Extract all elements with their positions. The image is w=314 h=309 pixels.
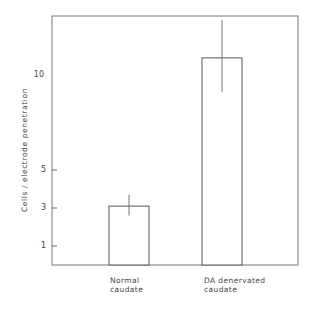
plot-frame xyxy=(52,16,298,265)
y-tick-label: 3 xyxy=(32,204,46,212)
category-line-1: DA denervated xyxy=(204,276,266,285)
category-line-2: caudate xyxy=(204,285,266,294)
x-category-label-normal: Normal caudate xyxy=(110,276,143,294)
y-axis-label: Cells / electrode penetration xyxy=(20,88,29,212)
bars xyxy=(109,20,242,265)
x-category-label-da-denervated: DA denervated caudate xyxy=(204,276,266,294)
y-tick-label: 1 xyxy=(32,242,46,250)
category-line-2: caudate xyxy=(110,285,143,294)
chart-canvas xyxy=(0,0,314,309)
y-tick-label: 10 xyxy=(30,71,44,79)
category-line-1: Normal xyxy=(110,276,143,285)
y-tick-label: 5 xyxy=(32,166,46,174)
y-ticks xyxy=(52,170,57,246)
